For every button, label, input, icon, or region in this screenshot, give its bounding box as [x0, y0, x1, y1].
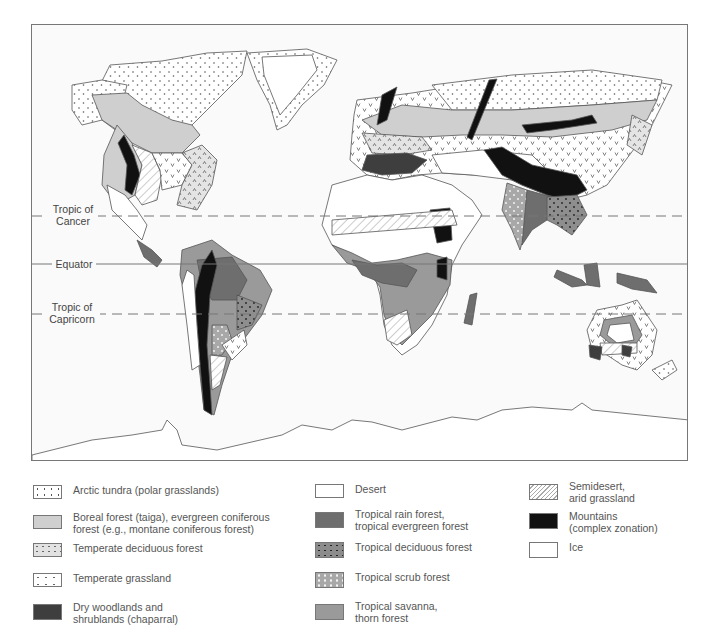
- legend-item-arctic-tundra: Arctic tundra (polar grasslands): [33, 484, 219, 499]
- legend-label: Boreal forest (taiga), evergreen conifer…: [73, 511, 270, 535]
- dry-woodlands-swatch: [33, 604, 62, 620]
- tropic-of-capricorn-label-line1: Tropic of: [44, 301, 100, 313]
- legend-label: Arctic tundra (polar grasslands): [73, 484, 219, 496]
- mountains-swatch: [529, 513, 558, 529]
- tropical-deciduous-forest-swatch: [315, 542, 344, 558]
- southeast-asia-islands: [554, 263, 657, 293]
- legend-item-tropical-rain-forest: Tropical rain forest, tropical evergreen…: [315, 508, 468, 532]
- legend-item-tropical-scrub-forest: Tropical scrub forest: [315, 571, 450, 588]
- tropical-rain-forest-swatch: [315, 512, 344, 528]
- legend-label: Tropical deciduous forest: [355, 541, 472, 553]
- temperate-deciduous-forest-swatch: [33, 543, 62, 557]
- tropic-of-cancer-label: Tropic of Cancer: [48, 203, 98, 227]
- tropical-scrub-forest-swatch: [315, 572, 344, 588]
- desert-swatch: [315, 484, 344, 498]
- legend-item-desert: Desert: [315, 483, 386, 498]
- legend-label: Tropical rain forest, tropical evergreen…: [355, 508, 468, 532]
- australia: [587, 300, 677, 380]
- map-canvas: [32, 25, 688, 461]
- legend-item-mountains: Mountains (complex zonation): [529, 510, 658, 534]
- africa: [322, 175, 482, 355]
- legend-item-dry-woodlands: Dry woodlands and shrublands (chaparral): [33, 601, 178, 625]
- legend-item-ice: Ice: [529, 541, 583, 558]
- legend-item-boreal-forest: Boreal forest (taiga), evergreen conifer…: [33, 511, 270, 535]
- legend-label: Temperate deciduous forest: [73, 542, 203, 554]
- equator-label: Equator: [52, 258, 96, 270]
- legend-label: Dry woodlands and shrublands (chaparral): [73, 601, 178, 625]
- semidesert-swatch: [529, 484, 558, 500]
- world-biome-map: Tropic of Cancer Equator Tropic of Capri…: [31, 24, 688, 461]
- greenland: [247, 49, 337, 130]
- legend-item-tropical-savanna: Tropical savanna, thorn forest: [315, 600, 438, 624]
- tropic-of-cancer-label-line2: Cancer: [48, 215, 98, 227]
- legend-label: Desert: [355, 483, 386, 495]
- arctic-tundra-swatch: [33, 485, 62, 499]
- legend-label: Ice: [569, 541, 583, 553]
- legend-label: Mountains (complex zonation): [569, 510, 658, 534]
- tropical-savanna-swatch: [315, 604, 344, 620]
- south-america: [180, 240, 272, 415]
- antarctica: [32, 403, 688, 461]
- legend-item-temperate-grassland: Temperate grassland: [33, 572, 171, 587]
- tropic-of-capricorn-label: Tropic of Capricorn: [44, 301, 100, 325]
- legend-label: Semidesert, arid grassland: [569, 480, 635, 504]
- boreal-forest-swatch: [33, 515, 62, 529]
- legend-label: Tropical scrub forest: [355, 571, 450, 583]
- legend-item-semidesert: Semidesert, arid grassland: [529, 480, 635, 504]
- legend-label: Temperate grassland: [73, 572, 171, 584]
- legend-item-tropical-deciduous-forest: Tropical deciduous forest: [315, 541, 472, 558]
- equator-label-text: Equator: [56, 258, 93, 270]
- tropic-of-capricorn-label-line2: Capricorn: [44, 313, 100, 325]
- legend-item-temperate-deciduous-forest: Temperate deciduous forest: [33, 542, 203, 557]
- north-america: [72, 51, 247, 267]
- temperate-grassland-swatch: [33, 573, 62, 587]
- ice-swatch: [529, 542, 558, 558]
- tropic-of-cancer-label-line1: Tropic of: [48, 203, 98, 215]
- legend-label: Tropical savanna, thorn forest: [355, 600, 438, 624]
